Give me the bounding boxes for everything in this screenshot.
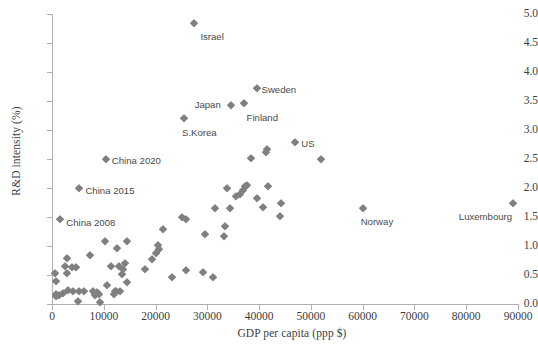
data-point: [63, 254, 71, 262]
data-point-label: Japan: [195, 99, 221, 110]
data-point: [223, 184, 231, 192]
data-point: [180, 114, 188, 122]
data-point: [159, 225, 167, 233]
x-tick-label: 90000: [504, 310, 533, 322]
data-point: [101, 237, 109, 245]
data-point: [209, 273, 217, 281]
data-point-label: Israel: [200, 30, 223, 41]
data-point: [56, 215, 64, 223]
data-point-label: Sweden: [262, 83, 297, 94]
data-point-label: US: [301, 137, 314, 148]
data-point: [182, 266, 190, 274]
data-point: [253, 84, 261, 92]
data-point: [52, 277, 60, 285]
data-point: [123, 278, 131, 286]
data-point: [227, 101, 235, 109]
data-point: [118, 270, 126, 278]
data-point: [168, 273, 176, 281]
data-point: [317, 155, 325, 163]
data-point-label: Norway: [361, 216, 394, 227]
data-point: [211, 204, 219, 212]
data-point: [359, 204, 367, 212]
x-tick-label: 30000: [193, 310, 222, 322]
x-tick-label: 60000: [348, 310, 377, 322]
x-tick-label: 50000: [297, 310, 326, 322]
data-point: [86, 251, 94, 259]
x-tick-label: 0: [49, 310, 55, 322]
data-point: [141, 265, 149, 273]
data-point: [277, 199, 285, 207]
data-point-label: China 2015: [85, 185, 134, 196]
data-point: [220, 232, 228, 240]
plot-area: IsraelSwedenFinlandJapanS.KoreaUSNorwayL…: [52, 14, 518, 304]
data-point: [253, 194, 261, 202]
data-point: [201, 230, 209, 238]
data-point: [123, 237, 131, 245]
data-point: [75, 184, 83, 192]
x-axis-line: [52, 304, 519, 305]
data-point: [63, 269, 71, 277]
data-point-label: China 2020: [112, 155, 161, 166]
data-point-label: Luxembourg: [459, 210, 512, 221]
x-axis-title: GDP per capita (ppp $): [0, 327, 538, 339]
data-point-label: Finland: [247, 111, 278, 122]
data-point: [113, 244, 121, 252]
data-point: [240, 99, 248, 107]
x-tick-label: 20000: [141, 310, 170, 322]
y-axis-title: R&D intensity (%): [10, 81, 22, 221]
data-point: [259, 203, 267, 211]
data-point: [221, 222, 229, 230]
data-point: [226, 204, 234, 212]
x-tick-label: 70000: [400, 310, 429, 322]
data-point: [509, 199, 517, 207]
data-point: [190, 19, 198, 27]
data-point-label: S.Korea: [182, 127, 217, 138]
data-point: [264, 182, 272, 190]
data-point-label: China 2008: [66, 216, 115, 227]
x-tick-label: 10000: [89, 310, 118, 322]
scatter-chart: R&D intensity (%) GDP per capita (ppp $)…: [0, 0, 538, 350]
data-point: [102, 155, 110, 163]
data-point: [247, 154, 255, 162]
data-point: [291, 138, 299, 146]
x-tick-label: 80000: [452, 310, 481, 322]
data-point: [182, 215, 190, 223]
x-tick-label: 40000: [245, 310, 274, 322]
data-point: [199, 268, 207, 276]
data-point: [103, 281, 111, 289]
data-point: [74, 297, 82, 305]
data-point: [276, 212, 284, 220]
